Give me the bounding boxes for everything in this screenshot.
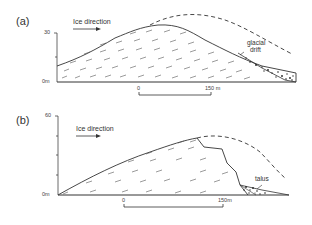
panel-b-cross-section [0, 112, 312, 225]
y-axis-top-label-b: 60 [45, 112, 51, 118]
scale-bar-end-b: 150m [218, 197, 232, 203]
scale-bar-start-a: 0 [137, 85, 140, 91]
ice-direction-label-b: Ice direction [76, 125, 114, 132]
ice-direction-label-a: Ice direction [73, 18, 111, 25]
panel-a-label: (a) [16, 15, 29, 27]
y-axis-top-label-a: 30 [44, 29, 50, 35]
panel-a-roche-moutonnee-with-drift: (a) Ice direction 30 0m glacial drift 0 … [0, 0, 312, 112]
talus-label: talus [255, 175, 269, 182]
panel-a-cross-section [0, 0, 312, 112]
scale-bar-end-a: 150 m [205, 85, 220, 91]
y-axis-bottom-label-a: 0m [42, 78, 50, 84]
glacial-drift-label-line2: drift [250, 46, 261, 53]
glacial-drift-label-line1: glacial [247, 39, 265, 46]
panel-b-label: (b) [16, 114, 29, 126]
ice-direction-arrow-icon [73, 27, 101, 31]
ice-direction-arrow-icon [76, 134, 101, 138]
scale-bar-start-b: 0 [122, 197, 125, 203]
panel-b-roche-moutonnee-with-talus: (b) Ice direction 60 0m talus 0 150m [0, 112, 312, 225]
y-axis-bottom-label-b: 0m [42, 191, 50, 197]
